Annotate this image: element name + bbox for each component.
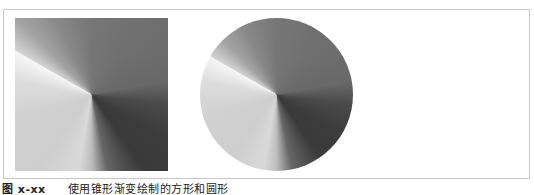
figure-number: 图 x-xx bbox=[2, 183, 46, 188]
conic-gradient-circle bbox=[200, 18, 353, 171]
figure-caption: 图 x-xx使用锥形渐变绘制的方形和圆形 bbox=[2, 183, 229, 188]
figure-caption-text: 使用锥形渐变绘制的方形和圆形 bbox=[68, 183, 229, 188]
conic-gradient-square bbox=[15, 18, 168, 171]
